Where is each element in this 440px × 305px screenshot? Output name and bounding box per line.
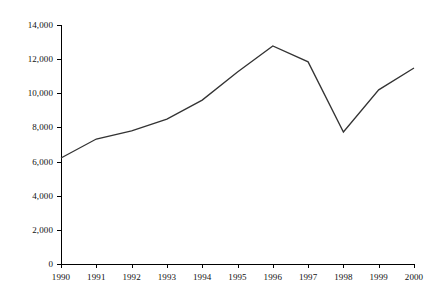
- x-tick-label: 2000: [405, 272, 423, 282]
- x-tick-label: 1994: [193, 272, 211, 282]
- x-tick-label: 1991: [87, 272, 105, 282]
- x-tick-label: 1999: [369, 272, 387, 282]
- data-series-line: [61, 46, 414, 158]
- x-tick-label: 1990: [52, 272, 70, 282]
- y-tick-label: 6,000: [0, 157, 53, 167]
- y-tick-label: 2,000: [0, 225, 53, 235]
- y-tick-label: 8,000: [0, 122, 53, 132]
- y-tick-label: 0: [0, 259, 53, 269]
- x-tick-label: 1997: [299, 272, 317, 282]
- x-axis: [61, 264, 415, 268]
- y-tick-label: 4,000: [0, 191, 53, 201]
- y-tick-label: 14,000: [0, 20, 53, 30]
- x-tick-label: 1992: [122, 272, 140, 282]
- x-tick-label: 1998: [334, 272, 352, 282]
- chart-plot-area: [0, 0, 440, 305]
- x-tick-label: 1993: [158, 272, 176, 282]
- x-tick-label: 1995: [228, 272, 246, 282]
- y-tick-label: 12,000: [0, 54, 53, 64]
- y-axis: [57, 25, 62, 265]
- line-chart: 02,0004,0006,0008,00010,00012,00014,000 …: [0, 0, 440, 305]
- series-polyline: [61, 46, 414, 158]
- y-tick-label: 10,000: [0, 88, 53, 98]
- x-tick-label: 1996: [264, 272, 282, 282]
